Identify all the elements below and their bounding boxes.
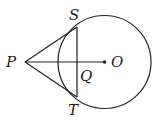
- label-s: S: [69, 6, 79, 24]
- label-q: Q: [80, 67, 92, 85]
- center-point-o: [103, 60, 107, 64]
- label-o: O: [111, 53, 123, 71]
- label-t: T: [68, 101, 79, 119]
- tangent-ps: [25, 27, 77, 62]
- geometry-diagram: P S T Q O: [0, 0, 162, 127]
- label-p: P: [5, 53, 17, 71]
- tangent-pt: [25, 62, 77, 97]
